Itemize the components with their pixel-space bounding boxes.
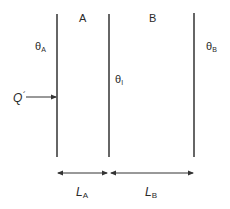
heat-flow-prime: ´ [22, 90, 25, 100]
theta-i-label: θI [115, 74, 123, 86]
theta-b-subscript: B [212, 46, 217, 53]
heat-flow-symbol: Q [13, 91, 22, 105]
layer-b-label: B [149, 13, 156, 24]
thickness-a-subscript: A [83, 191, 88, 200]
thickness-a-label: LA [76, 186, 88, 200]
thickness-b-subscript: B [152, 191, 157, 200]
theta-a-subscript: A [41, 46, 46, 53]
thickness-b-symbol: L [145, 185, 152, 199]
diagram-canvas [0, 0, 230, 209]
thickness-a-symbol: L [76, 185, 83, 199]
heat-flow-label: Q´ [13, 91, 25, 104]
theta-i-subscript: I [121, 79, 123, 86]
theta-b-label: θB [206, 41, 217, 53]
layer-a-label: A [79, 13, 86, 24]
thickness-b-label: LB [145, 186, 157, 200]
theta-a-label: θA [35, 41, 46, 53]
